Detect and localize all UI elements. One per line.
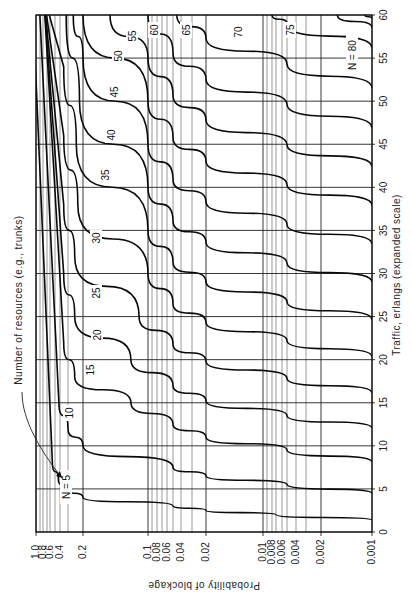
probability-tick-label: 0.001 (366, 539, 377, 564)
svg-text:35: 35 (100, 169, 111, 181)
grid (36, 15, 375, 536)
curve-label: 75 (284, 22, 296, 38)
traffic-tick-label: 40 (378, 181, 389, 193)
svg-text:50: 50 (113, 50, 124, 62)
curve-label: 20 (91, 327, 103, 343)
svg-text:15: 15 (85, 364, 96, 376)
svg-text:40: 40 (106, 129, 117, 141)
curve-label: 55 (126, 28, 138, 44)
svg-text:N = 5: N = 5 (61, 474, 72, 499)
svg-text:20: 20 (92, 329, 103, 341)
probability-tick-label: 0.006 (276, 539, 287, 564)
annotation-arrow (22, 392, 62, 478)
traffic-tick-label: 60 (378, 9, 389, 21)
curve-label: N = 80 (346, 35, 358, 75)
traffic-tick-label: 50 (378, 95, 389, 107)
svg-text:25: 25 (91, 287, 102, 299)
svg-text:N = 80: N = 80 (347, 40, 358, 70)
svg-text:10: 10 (64, 407, 75, 419)
svg-text:65: 65 (181, 24, 192, 36)
traffic-tick-label: 30 (378, 268, 389, 280)
traffic-axis-ticks: 051015202530354045505560 (378, 9, 389, 535)
resources-annotation: Number of resources (e.g., trunks) (13, 215, 62, 478)
curve-label: 15 (84, 362, 96, 378)
svg-text:45: 45 (109, 86, 120, 98)
curve-label: 30 (90, 230, 102, 246)
svg-text:55: 55 (127, 30, 138, 42)
curve-n-30 (44, 0, 372, 357)
curve-label: N = 5 (60, 470, 72, 504)
traffic-tick-label: 5 (378, 486, 389, 492)
curve-n-55 (90, 0, 372, 167)
traffic-tick-label: 10 (378, 440, 389, 452)
curve-label: 50 (112, 48, 124, 64)
curve-label: 10 (63, 405, 75, 421)
curve-labels: N = 51015202530354045505560657075N = 80 (60, 22, 358, 504)
traffic-tick-label: 0 (378, 529, 389, 535)
curve-n-80 (345, 0, 372, 18)
curve-n-65 (157, 0, 372, 88)
curve-label: 40 (105, 127, 117, 143)
traffic-tick-label: 45 (378, 138, 389, 150)
svg-text:70: 70 (233, 26, 244, 38)
resources-annotation-text: Number of resources (e.g., trunks) (13, 215, 24, 384)
curve-label: 45 (108, 84, 120, 100)
curve-n-60 (128, 0, 372, 128)
traffic-tick-label: 20 (378, 354, 389, 366)
erlang-blocking-chart: N = 51015202530354045505560657075N = 80 … (0, 0, 412, 602)
traffic-tick-label: 35 (378, 224, 389, 236)
curve-label: 35 (99, 167, 111, 183)
traffic-axis-title: Traffic, erlangs (expanded scale) (391, 194, 402, 356)
curve-label: 60 (148, 22, 160, 38)
probability-tick-label: 0.002 (315, 539, 326, 564)
svg-text:60: 60 (149, 24, 160, 36)
probability-tick-label: 0.004 (290, 539, 301, 564)
curve-label: 65 (180, 22, 192, 38)
curve-label: 70 (232, 24, 244, 40)
traffic-tick-label: 55 (378, 52, 389, 64)
probability-tick-label: 0.04 (175, 542, 186, 562)
svg-text:30: 30 (91, 232, 102, 244)
probability-tick-label: 0.4 (54, 545, 65, 559)
traffic-tick-label: 15 (378, 397, 389, 409)
curve-n-75 (317, 0, 372, 28)
probability-tick-label: 0.2 (77, 545, 88, 559)
curve-label: 25 (90, 285, 102, 301)
svg-text:75: 75 (285, 24, 296, 36)
probability-axis-ticks: 1.00.80.60.40.20.10.080.060.040.020.010.… (30, 539, 377, 564)
probability-tick-label: 0.02 (200, 542, 211, 562)
probability-axis-title: Probability of blockage (148, 580, 260, 591)
probability-tick-label: 0.06 (161, 542, 172, 562)
traffic-tick-label: 25 (378, 311, 389, 323)
